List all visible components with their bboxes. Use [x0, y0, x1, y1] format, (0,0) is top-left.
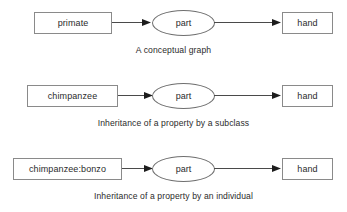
- relation-node: part: [152, 10, 215, 36]
- concept-node-target-label: hand: [297, 91, 317, 101]
- concept-node-source-label: chimpanzee: [48, 91, 98, 101]
- relation-node-label: part: [176, 164, 192, 174]
- concept-node-source: chimpanzee: [27, 85, 118, 107]
- relation-node-label: part: [176, 18, 192, 28]
- row-caption: Inheritance of a property by a subclass: [0, 118, 347, 128]
- concept-node-source: primate: [34, 12, 112, 34]
- concept-node-target-label: hand: [297, 164, 317, 174]
- arrow-relation-to-target: [214, 18, 284, 27]
- relation-node-label: part: [176, 91, 192, 101]
- relation-node: part: [152, 83, 215, 109]
- arrow-source-to-relation: [118, 91, 156, 100]
- concept-node-source-label: chimpanzee:bonzo: [29, 164, 106, 174]
- concept-node-target: hand: [282, 85, 333, 107]
- concept-node-target: hand: [282, 12, 333, 34]
- row-caption: Inheritance of a property by an individu…: [0, 191, 347, 201]
- conceptual-graph-figure: primate part hand A conceptual graph chi…: [0, 0, 347, 212]
- concept-node-source-label: primate: [58, 18, 89, 28]
- concept-node-target: hand: [282, 158, 333, 180]
- arrow-source-to-relation: [112, 18, 154, 27]
- arrow-relation-to-target: [214, 164, 284, 173]
- relation-node: part: [152, 156, 215, 182]
- row-caption: A conceptual graph: [0, 45, 347, 55]
- arrow-source-to-relation: [122, 164, 156, 173]
- concept-node-source: chimpanzee:bonzo: [13, 158, 122, 180]
- arrow-relation-to-target: [214, 91, 284, 100]
- concept-node-target-label: hand: [297, 18, 317, 28]
